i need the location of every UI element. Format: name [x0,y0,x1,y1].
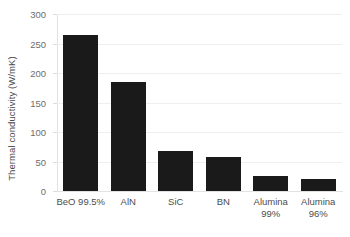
plot-area [57,14,342,191]
thermal-conductivity-bar-chart: Thermal conductivity (W/mK) 050100150200… [0,0,350,237]
y-tick-label: 150 [6,97,46,108]
bar [206,157,241,191]
y-tick-label: 300 [6,9,46,20]
y-tick-label: 0 [6,186,46,197]
y-tick-mark [53,191,57,192]
bar [158,151,193,191]
bar [301,179,336,191]
y-axis-title: Thermal conductivity (W/mK) [0,0,22,237]
bar [63,35,98,191]
y-tick-label: 200 [6,68,46,79]
bar [111,82,146,191]
x-axis-line [57,191,343,192]
bar [253,176,288,191]
x-tick-label: Alumina 96% [285,196,350,220]
y-tick-label: 100 [6,127,46,138]
y-tick-label: 50 [6,156,46,167]
y-tick-label: 250 [6,38,46,49]
